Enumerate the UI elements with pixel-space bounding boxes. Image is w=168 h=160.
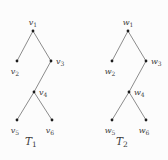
node-v2-label: v2 bbox=[11, 67, 20, 77]
node-w6-label: w6 bbox=[139, 126, 150, 136]
edge-v4-v5 bbox=[17, 92, 34, 120]
edge-v1-v3 bbox=[33, 31, 51, 61]
node-w4-label: w4 bbox=[134, 88, 145, 98]
node-w1-dot bbox=[127, 30, 130, 33]
node-v3-label: v3 bbox=[56, 57, 65, 67]
node-v5-label: v5 bbox=[11, 126, 20, 136]
node-v3-dot bbox=[50, 60, 53, 63]
tree-figure: v1v2v3v4v5v6T1w1w2w3w4w5w6T2 bbox=[0, 0, 168, 160]
node-v1-dot bbox=[32, 30, 35, 33]
edge-w4-w5 bbox=[112, 92, 129, 120]
edge-v1-v2 bbox=[17, 31, 33, 61]
node-w5-dot bbox=[111, 119, 114, 122]
node-v6-dot bbox=[51, 119, 54, 122]
tree-T2: w1w2w3w4w5w6 bbox=[105, 18, 162, 136]
caption-T1: T1 bbox=[25, 135, 37, 149]
node-w5-label: w5 bbox=[105, 126, 116, 136]
node-v1-label: v1 bbox=[29, 18, 37, 28]
node-w6-dot bbox=[145, 119, 148, 122]
tree-T1: v1v2v3v4v5v6 bbox=[11, 18, 65, 136]
node-w3-label: w3 bbox=[151, 57, 162, 67]
node-w1-label: w1 bbox=[123, 18, 134, 28]
node-w2-label: w2 bbox=[105, 67, 116, 77]
node-v6-label: v6 bbox=[46, 126, 55, 136]
node-w4-dot bbox=[128, 91, 131, 94]
node-v5-dot bbox=[16, 119, 19, 122]
node-v2-dot bbox=[16, 60, 19, 63]
node-v4-label: v4 bbox=[39, 88, 48, 98]
tree-figure-svg: v1v2v3v4v5v6T1w1w2w3w4w5w6T2 bbox=[0, 0, 168, 160]
node-v4-dot bbox=[33, 91, 36, 94]
edge-w1-w2 bbox=[112, 31, 128, 61]
node-w2-dot bbox=[111, 60, 114, 63]
node-w3-dot bbox=[145, 60, 148, 63]
caption-T2: T2 bbox=[116, 135, 128, 149]
edge-w1-w3 bbox=[128, 31, 146, 61]
